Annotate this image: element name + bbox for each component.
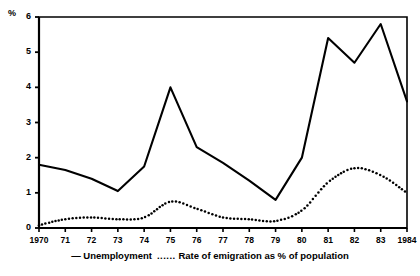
y-axis-tick-label: 0	[17, 222, 31, 232]
legend-label-unemployment: Unemployment	[83, 250, 152, 261]
x-axis-tick-label: 1970	[30, 235, 49, 245]
x-axis-tick-label: 82	[350, 235, 359, 245]
y-axis-tick-label: 6	[17, 11, 31, 21]
legend-solid-line-marker: —	[71, 250, 81, 261]
y-axis-tick-label: 2	[17, 152, 31, 162]
chart-figure: % 0123456 197071727374757677787980818283…	[0, 0, 420, 276]
legend-label-emigration: Rate of emigration as % of population	[178, 250, 348, 261]
legend-dotted-line-marker: ......	[157, 250, 176, 261]
x-axis-tick-label: 83	[376, 235, 385, 245]
x-axis-tick-label: 72	[87, 235, 96, 245]
x-axis-tick-label: 78	[245, 235, 254, 245]
x-axis-tick-label: 73	[113, 235, 122, 245]
y-axis-tick-label: 3	[17, 117, 31, 127]
y-axis-tick-label: 5	[17, 46, 31, 56]
x-axis-tick-label: 1984	[398, 235, 417, 245]
series-line-unemployment	[39, 24, 407, 200]
plot-frame	[39, 17, 407, 228]
x-axis-tick-label: 79	[271, 235, 280, 245]
legend-item-unemployment: — Unemployment	[71, 250, 152, 261]
y-axis-tick-label: 4	[17, 81, 31, 91]
y-axis-tick-label: 1	[17, 187, 31, 197]
x-axis-tick-label: 75	[166, 235, 175, 245]
legend-item-emigration: ...... Rate of emigration as % of popula…	[157, 250, 349, 261]
series-line-emigration	[38, 167, 406, 227]
x-axis-tick-label: 81	[323, 235, 332, 245]
x-axis-tick-label: 80	[297, 235, 306, 245]
x-axis-tick-label: 77	[218, 235, 227, 245]
x-axis-tick-label: 76	[192, 235, 201, 245]
x-axis-tick-label: 71	[61, 235, 70, 245]
chart-series-lines	[38, 24, 407, 226]
chart-legend: — Unemployment...... Rate of emigration …	[0, 250, 420, 261]
x-axis-tick-label: 74	[139, 235, 148, 245]
